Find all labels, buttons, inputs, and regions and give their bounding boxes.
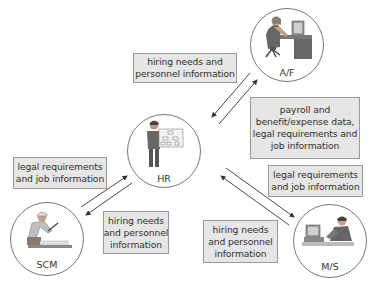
node-label-hr: HR [128,173,200,184]
node-scm: SCM [10,202,84,276]
label-line: legal requirements [18,161,103,173]
node-label-af: A/F [251,67,323,78]
worker-sawing-icon [18,209,78,255]
label-line: information [110,239,162,251]
label-line: personnel information [135,68,234,80]
node-hr: HR [127,114,201,188]
label-box-af-to-hr: payroll and benefit/expense data, legal … [250,97,360,159]
label-box-ms-to-hr: hiring needs and personnel information [203,220,278,263]
node-label-ms: M/S [294,261,366,272]
label-line: hiring needs [213,224,269,236]
label-line: and personnel [208,236,272,248]
label-line: information [215,248,267,260]
label-line: hiring needs [108,215,164,227]
label-line: legal requirements and [253,128,358,140]
node-ms: M/S [293,204,367,278]
label-line: and job information [271,181,359,193]
label-line: payroll and [280,104,330,116]
label-box-hr-to-scm: legal requirements and job information [13,157,107,189]
person-with-org-chart-icon [140,119,190,171]
person-at-desk-icon [258,13,318,65]
label-line: job information [271,140,339,152]
label-line: and personnel [104,227,168,239]
label-line: hiring needs and [147,56,223,68]
label-box-scm-to-hr: hiring needs and personnel information [103,211,169,254]
label-line: and job information [16,173,104,185]
label-line: legal requirements [273,169,358,181]
label-box-hr-to-ms: legal requirements and job information [268,165,363,197]
person-on-phone-icon [300,213,362,253]
node-label-scm: SCM [11,259,83,270]
label-line: benefit/expense data, [256,116,355,128]
node-af: A/F [250,8,324,82]
label-box-hr-to-af: hiring needs and personnel information [133,53,237,83]
